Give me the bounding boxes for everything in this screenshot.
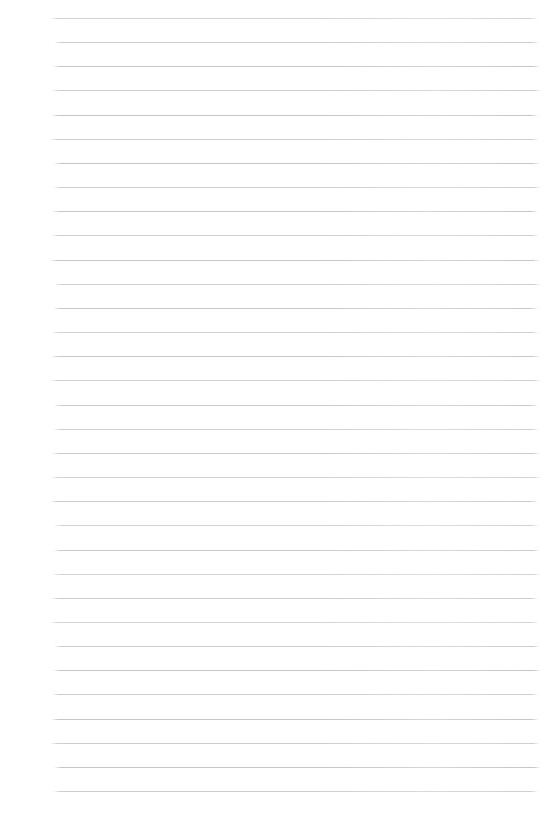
ruled-line bbox=[51, 235, 539, 236]
ruled-line bbox=[54, 163, 540, 164]
ruled-line bbox=[51, 598, 538, 599]
ruled-line bbox=[52, 453, 540, 454]
ruled-line bbox=[53, 308, 538, 309]
ruled-line bbox=[52, 332, 539, 333]
ruled-line bbox=[50, 260, 540, 261]
ruled-line bbox=[51, 356, 540, 357]
ruled-lines bbox=[0, 0, 542, 838]
ruled-line bbox=[54, 646, 540, 647]
ruled-line bbox=[52, 90, 541, 91]
ruled-line bbox=[51, 115, 538, 116]
ruled-line bbox=[50, 622, 539, 623]
ruled-line bbox=[53, 66, 540, 67]
ruled-line bbox=[53, 429, 539, 430]
ruled-line bbox=[54, 284, 541, 285]
ruled-line bbox=[50, 139, 539, 140]
lined-paper-page bbox=[0, 0, 542, 838]
ruled-line bbox=[52, 694, 538, 695]
ruled-line bbox=[50, 743, 540, 744]
ruled-line bbox=[53, 550, 540, 551]
ruled-line bbox=[54, 767, 541, 768]
ruled-line bbox=[53, 187, 541, 188]
ruled-line bbox=[54, 42, 539, 43]
ruled-line bbox=[51, 477, 541, 478]
ruled-line bbox=[54, 525, 539, 526]
ruled-line bbox=[53, 670, 541, 671]
ruled-line bbox=[53, 791, 538, 792]
ruled-line bbox=[52, 574, 541, 575]
ruled-line bbox=[50, 380, 541, 381]
ruled-line bbox=[50, 18, 538, 19]
ruled-line bbox=[54, 405, 538, 406]
ruled-line bbox=[50, 501, 538, 502]
ruled-line bbox=[51, 719, 539, 720]
ruled-line bbox=[52, 211, 538, 212]
